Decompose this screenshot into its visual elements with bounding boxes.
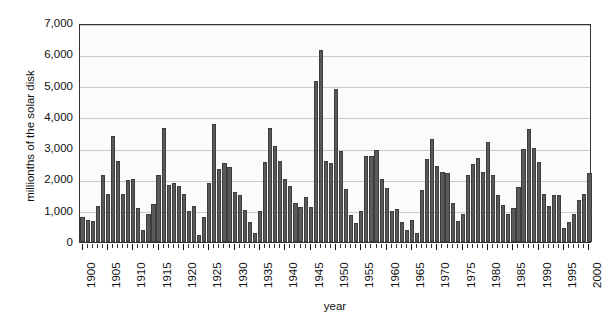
bar bbox=[283, 179, 287, 242]
x-tick-mark bbox=[122, 244, 123, 248]
bar bbox=[172, 183, 176, 242]
x-tick-mark bbox=[553, 244, 554, 248]
x-tick-mark bbox=[497, 244, 498, 248]
bar bbox=[451, 203, 455, 242]
x-tick-label: 1950 bbox=[339, 262, 351, 288]
bar bbox=[177, 186, 181, 242]
y-tick-label: 3,000 bbox=[44, 143, 73, 155]
x-tick-label: 1910 bbox=[136, 262, 148, 288]
bar bbox=[121, 194, 125, 242]
bar bbox=[461, 214, 465, 242]
x-tick-mark bbox=[340, 244, 341, 248]
bar bbox=[516, 187, 520, 242]
x-tick-mark bbox=[289, 244, 290, 248]
bar bbox=[141, 230, 145, 243]
bar bbox=[314, 81, 318, 242]
bar bbox=[552, 195, 556, 242]
bar bbox=[146, 214, 150, 242]
x-tick-mark bbox=[345, 244, 346, 248]
x-tick-mark bbox=[325, 244, 326, 248]
x-tick-mark bbox=[381, 244, 382, 248]
bar bbox=[197, 235, 201, 242]
bar bbox=[491, 175, 495, 242]
x-tick-mark bbox=[223, 244, 224, 248]
x-tick-label: 1920 bbox=[187, 262, 199, 288]
bar bbox=[212, 124, 216, 242]
x-tick-mark bbox=[365, 244, 366, 248]
x-tick-mark bbox=[153, 244, 154, 248]
x-tick-mark bbox=[533, 244, 534, 248]
x-tick-mark bbox=[300, 244, 301, 248]
bar bbox=[385, 188, 389, 242]
bar bbox=[567, 222, 571, 242]
x-tick-mark bbox=[229, 244, 230, 248]
x-tick-label: 1995 bbox=[567, 262, 579, 288]
x-tick-mark bbox=[315, 244, 316, 248]
sunspot-area-bar-chart: millionths of the solar disk 01,0002,000… bbox=[0, 0, 606, 325]
bar bbox=[238, 195, 242, 242]
x-tick-mark bbox=[127, 244, 128, 248]
x-tick-mark bbox=[467, 244, 468, 248]
x-tick-mark bbox=[492, 244, 493, 248]
x-tick-mark bbox=[401, 244, 402, 248]
x-tick-mark bbox=[137, 244, 138, 248]
x-tick-mark bbox=[502, 244, 503, 248]
x-tick-mark bbox=[355, 244, 356, 248]
bar bbox=[435, 166, 439, 242]
x-tick-mark bbox=[583, 244, 584, 248]
bar bbox=[227, 167, 231, 242]
x-axis-tick-labels: 1900190519101915192019251930193519401945… bbox=[79, 250, 591, 292]
bar bbox=[511, 208, 515, 242]
bar bbox=[572, 214, 576, 242]
x-tick-label: 1970 bbox=[440, 262, 452, 288]
x-tick-mark bbox=[376, 244, 377, 248]
y-axis-tick-labels: 01,0002,0003,0004,0005,0006,0007,000 bbox=[0, 0, 78, 325]
bar bbox=[151, 204, 155, 242]
x-tick-mark bbox=[305, 244, 306, 248]
x-tick-label: 1975 bbox=[466, 262, 478, 288]
bar bbox=[537, 162, 541, 242]
bar bbox=[390, 211, 394, 242]
y-tick-label: 5,000 bbox=[44, 81, 73, 93]
bar bbox=[506, 214, 510, 242]
bar bbox=[466, 175, 470, 242]
bar bbox=[304, 197, 308, 242]
bar bbox=[309, 207, 313, 242]
bar bbox=[253, 233, 257, 242]
bar bbox=[298, 207, 302, 242]
bar bbox=[293, 203, 297, 242]
bar bbox=[344, 189, 348, 242]
x-tick-mark bbox=[548, 244, 549, 248]
x-tick-label: 1935 bbox=[263, 262, 275, 288]
x-tick-mark bbox=[452, 244, 453, 248]
bar bbox=[263, 162, 267, 242]
bar bbox=[374, 150, 378, 242]
bar bbox=[288, 186, 292, 242]
bar bbox=[445, 173, 449, 242]
x-tick-label: 1990 bbox=[542, 262, 554, 288]
y-tick-label: 0 bbox=[67, 237, 73, 249]
x-tick-mark bbox=[507, 244, 508, 248]
x-tick-mark bbox=[406, 244, 407, 248]
x-tick-mark bbox=[178, 244, 179, 248]
bar bbox=[187, 211, 191, 242]
bar bbox=[268, 128, 272, 243]
x-tick-label: 2000 bbox=[592, 262, 604, 288]
bar-series bbox=[80, 25, 590, 242]
x-tick-mark bbox=[254, 244, 255, 248]
x-tick-mark bbox=[578, 244, 579, 248]
x-tick-mark bbox=[92, 244, 93, 248]
x-tick-mark bbox=[173, 244, 174, 248]
x-tick-mark bbox=[350, 244, 351, 248]
bar bbox=[380, 179, 384, 243]
x-tick-mark bbox=[441, 244, 442, 248]
x-tick-label: 1980 bbox=[491, 262, 503, 288]
bar bbox=[192, 206, 196, 242]
bar bbox=[496, 195, 500, 242]
x-tick-mark bbox=[188, 244, 189, 248]
bar bbox=[233, 192, 237, 242]
bar bbox=[430, 139, 434, 242]
x-tick-label: 1940 bbox=[288, 262, 300, 288]
x-tick-label: 1900 bbox=[86, 262, 98, 288]
x-tick-mark bbox=[274, 244, 275, 248]
